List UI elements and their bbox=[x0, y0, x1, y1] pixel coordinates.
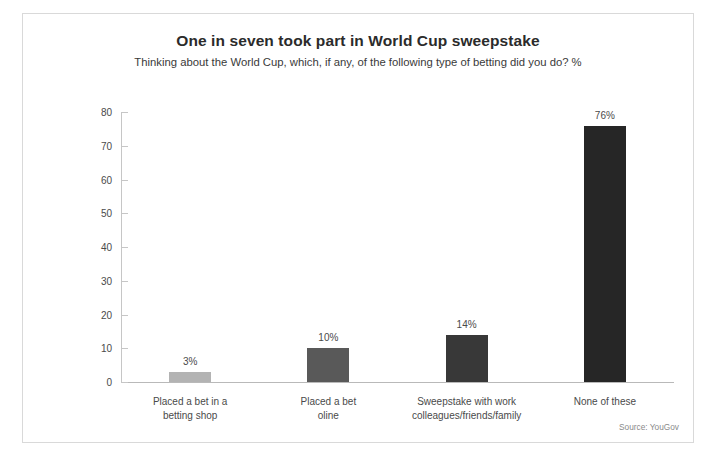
bar-value-label: 14% bbox=[457, 319, 477, 330]
x-axis-category-line: oline bbox=[259, 409, 397, 423]
x-axis-category-line: None of these bbox=[536, 395, 674, 409]
x-axis-category-line: betting shop bbox=[121, 409, 259, 423]
y-tick-label: 50 bbox=[101, 208, 112, 219]
x-axis-category-line: Placed a bet bbox=[259, 395, 397, 409]
bar-value-label: 3% bbox=[183, 356, 197, 367]
chart-subtitle: Thinking about the World Cup, which, if … bbox=[23, 56, 693, 68]
y-tick-label: 70 bbox=[101, 140, 112, 151]
chart-figure: One in seven took part in World Cup swee… bbox=[22, 13, 694, 443]
y-tick-mark bbox=[121, 281, 128, 282]
y-tick-mark bbox=[121, 247, 128, 248]
x-axis-category-label: Placed a bet in abetting shop bbox=[121, 395, 259, 423]
y-tick-label: 10 bbox=[101, 343, 112, 354]
y-tick-mark bbox=[121, 146, 128, 147]
bar: 3% bbox=[169, 372, 211, 382]
y-tick-mark bbox=[121, 180, 128, 181]
x-axis-category-line: Sweepstake with work bbox=[398, 395, 536, 409]
plot-area: 01020304050607080 3%10%14%76% Placed a b… bbox=[121, 112, 674, 382]
bar-value-label: 76% bbox=[595, 110, 615, 121]
y-tick-mark bbox=[121, 213, 128, 214]
y-tick-label: 60 bbox=[101, 174, 112, 185]
y-tick-label: 0 bbox=[106, 377, 112, 388]
y-tick-label: 40 bbox=[101, 242, 112, 253]
x-axis-category-label: Sweepstake with workcolleagues/friends/f… bbox=[398, 395, 536, 423]
x-axis-category-line: Placed a bet in a bbox=[121, 395, 259, 409]
y-tick-label: 30 bbox=[101, 275, 112, 286]
bar: 10% bbox=[307, 348, 349, 382]
y-tick-mark bbox=[121, 315, 128, 316]
y-tick-mark bbox=[121, 382, 128, 383]
x-axis-baseline bbox=[121, 382, 674, 383]
x-axis-category-label: None of these bbox=[536, 395, 674, 409]
bar: 76% bbox=[584, 126, 626, 383]
y-tick-label: 20 bbox=[101, 309, 112, 320]
chart-title: One in seven took part in World Cup swee… bbox=[23, 32, 693, 50]
bar: 14% bbox=[446, 335, 488, 382]
x-axis-category-line: colleagues/friends/family bbox=[398, 409, 536, 423]
source-attribution: Source: YouGov bbox=[619, 422, 679, 432]
y-tick-mark bbox=[121, 112, 128, 113]
bar-value-label: 10% bbox=[318, 332, 338, 343]
x-axis-category-label: Placed a betoline bbox=[259, 395, 397, 423]
y-tick-label: 80 bbox=[101, 107, 112, 118]
y-tick-mark bbox=[121, 348, 128, 349]
